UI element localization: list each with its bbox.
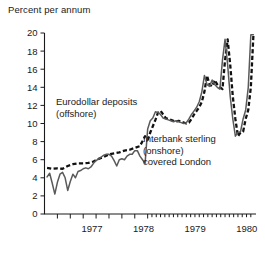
y-tick-label: 14 — [27, 82, 38, 93]
y-tick-label: 4 — [32, 172, 37, 183]
eurodollar-annotation-line: (offshore) — [56, 108, 96, 119]
y-tick-label: 10 — [27, 118, 38, 129]
interbank-annotation-line: (onshore) — [143, 145, 184, 156]
y-tick-label: 20 — [27, 27, 38, 38]
x-tick-label: 1977 — [81, 223, 102, 234]
y-tick-label: 2 — [32, 190, 37, 201]
axis-spines — [45, 33, 257, 214]
y-tick-label: 16 — [27, 64, 38, 75]
x-tick-label: 1979 — [185, 223, 206, 234]
y-tick-label: 8 — [32, 136, 37, 147]
y-tick-label: 6 — [32, 154, 37, 165]
x-tick-label: 1978 — [133, 223, 154, 234]
y-tick-label: 12 — [27, 100, 38, 111]
y-tick-label: 0 — [32, 208, 37, 219]
interbank-annotation-line: covered London — [143, 156, 211, 167]
x-tick-label: 1980 — [236, 223, 257, 234]
line-chart-plot: 024681012141618201977197819791980Eurodol… — [0, 0, 265, 254]
y-tick-label: 18 — [27, 46, 38, 57]
eurodollar-annotation-line: Eurodollar deposits — [56, 96, 138, 107]
interbank-annotation-line: Interbank sterling — [143, 133, 216, 144]
chart-figure: Percent per annum 0246810121416182019771… — [0, 0, 265, 254]
